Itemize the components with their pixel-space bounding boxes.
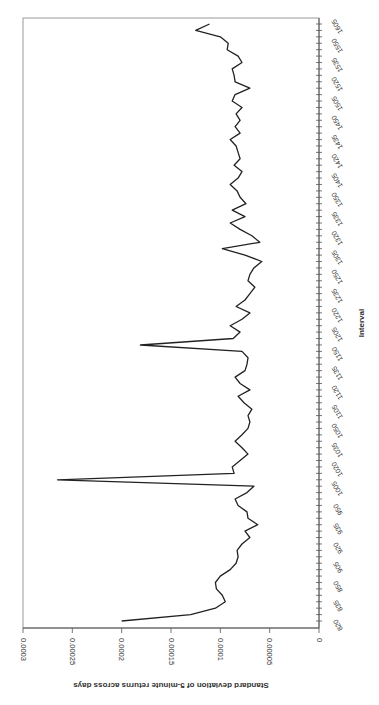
- x-axis-tick-label: 1450: [330, 114, 344, 131]
- y-axis-tick-labels: 00.000050.00010.000150.00020.000250.0003: [19, 638, 324, 665]
- x-axis-tick-label: 920: [332, 541, 344, 555]
- x-axis-tick-label: 1120: [330, 384, 344, 401]
- x-axis-tick-label: 1520: [330, 76, 344, 93]
- y-axis-tick-label: 0.0002: [117, 638, 126, 661]
- x-axis-tick-label: 1335: [330, 211, 344, 228]
- x-axis-tick-label: 1405: [330, 172, 344, 189]
- x-axis-tick-label: 1035: [330, 442, 344, 459]
- y-axis-tick-label: 0.00015: [167, 638, 176, 665]
- x-axis-tick-label: 1005: [330, 480, 344, 497]
- plot-area: [23, 18, 319, 628]
- chart-container: 8208358509059209359501005102010351050110…: [0, 0, 379, 705]
- x-axis-tick-label: 1535: [330, 56, 344, 73]
- x-axis-tick-label: 1050: [330, 422, 344, 439]
- x-axis-tick-label: 1350: [330, 191, 344, 208]
- y-axis-tick-label: 0.0001: [216, 638, 225, 661]
- x-axis-tick-label: 1235: [330, 288, 344, 305]
- x-axis-tick-labels: 8208358509059209359501005102010351050110…: [330, 18, 344, 632]
- x-axis-tick-label: 1305: [330, 249, 344, 266]
- x-axis-tick-label: 1220: [330, 307, 344, 324]
- x-axis-tick-label: 1250: [330, 268, 344, 285]
- x-axis-tick-label: 1150: [330, 346, 344, 363]
- x-axis-tick-label: 835: [332, 599, 344, 613]
- x-axis-tick-label: 1020: [330, 461, 344, 478]
- x-axis-tick-label: 1420: [330, 153, 344, 170]
- x-axis-tick-label: 1605: [330, 18, 344, 35]
- line-chart: 8208358509059209359501005102010351050110…: [0, 0, 379, 705]
- y-axis-ticks: [23, 628, 319, 633]
- x-axis-tick-label: 1105: [330, 404, 344, 421]
- x-axis-title: Interval: [357, 309, 366, 337]
- x-axis-tick-label: 1505: [330, 95, 344, 112]
- y-axis-tick-label: 0: [315, 638, 324, 642]
- y-axis-tick-label: 0.00025: [68, 638, 77, 665]
- y-axis-tick-label: 0.00005: [265, 638, 274, 665]
- x-axis-tick-label: 1435: [330, 133, 344, 150]
- x-axis-tick-label: 1320: [330, 230, 344, 247]
- x-axis-tick-label: 1135: [330, 365, 344, 382]
- x-axis-tick-label: 935: [332, 522, 344, 536]
- x-axis-tick-label: 1550: [330, 37, 344, 54]
- x-axis-tick-label: 950: [332, 503, 344, 517]
- x-axis-tick-label: 1205: [330, 326, 344, 343]
- x-axis-tick-label: 850: [332, 580, 344, 594]
- x-axis-tick-label: 820: [332, 618, 344, 632]
- x-axis-tick-label: 905: [332, 560, 344, 574]
- y-axis-tick-label: 0.0003: [19, 638, 28, 661]
- y-axis-title: Standard deviation of 5-minute returns a…: [73, 681, 269, 690]
